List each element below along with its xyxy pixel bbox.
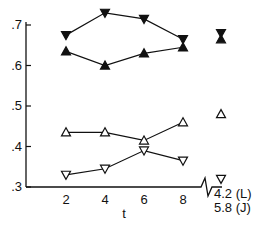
- line-chart: .7.6.5.4.3 2468 t 4.2 (L) 5.8 (J): [0, 0, 259, 230]
- axes: [26, 22, 222, 196]
- y-tick-label: .7: [11, 17, 22, 32]
- open-down-triangle-marker-icon: [217, 175, 226, 183]
- series-lines: [66, 13, 183, 175]
- series-line: [66, 122, 183, 140]
- filled-up-triangle-marker-icon: [217, 35, 226, 43]
- filled-down-triangle-marker-icon: [62, 32, 71, 40]
- open-down-triangle-marker-icon: [62, 171, 71, 179]
- y-tick-label: .3: [11, 179, 22, 194]
- open-down-triangle-marker-icon: [179, 157, 188, 165]
- series-line: [66, 13, 183, 39]
- x-axis-ticks: 2468: [62, 192, 186, 207]
- series-markers: [62, 9, 226, 183]
- y-tick-label: .6: [11, 58, 22, 73]
- filled-up-triangle-marker-icon: [179, 43, 188, 51]
- x-tick-label: 2: [62, 192, 69, 207]
- filled-down-triangle-marker-icon: [140, 15, 149, 23]
- open-up-triangle-marker-icon: [217, 110, 226, 118]
- x-tick-label: 8: [179, 192, 186, 207]
- filled-up-triangle-marker-icon: [62, 47, 71, 55]
- series-line: [66, 47, 183, 65]
- series-line: [66, 151, 183, 175]
- open-up-triangle-marker-icon: [179, 118, 188, 126]
- y-tick-label: .4: [11, 139, 22, 154]
- x-tick-label: 6: [140, 192, 147, 207]
- annotation-l: 4.2 (L): [214, 186, 252, 201]
- x-axis-line-with-break: [26, 178, 222, 196]
- x-axis-label: t: [122, 206, 126, 221]
- annotation-j: 5.8 (J): [214, 200, 251, 215]
- y-tick-label: .5: [11, 98, 22, 113]
- x-tick-label: 4: [101, 192, 108, 207]
- y-axis-ticks: .7.6.5.4.3: [11, 17, 31, 194]
